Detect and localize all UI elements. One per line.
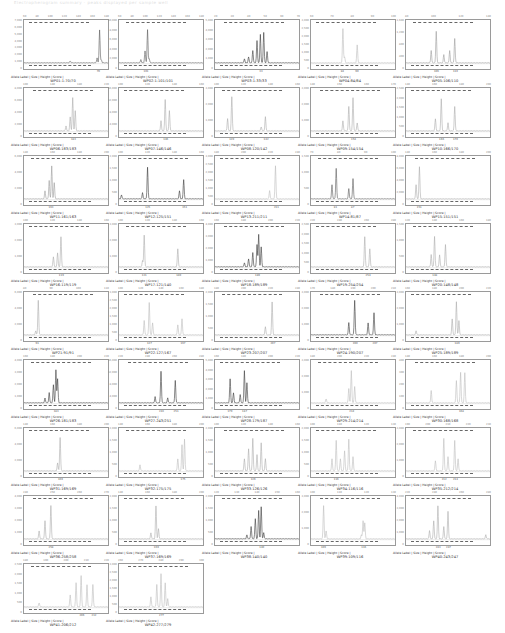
allele-size-label[interactable]: 214 [453,478,458,481]
plot-area[interactable] [118,155,204,206]
allele-size-label[interactable]: 211 [274,206,279,209]
plot-area[interactable] [23,87,109,138]
plot-area[interactable] [214,19,300,70]
allele-size-label[interactable]: 189 [255,274,260,277]
allele-size-label[interactable]: 206 [79,614,84,617]
plot-area[interactable] [405,495,491,546]
allele-size-label[interactable]: 119 [59,274,64,277]
plot-area[interactable] [118,427,204,478]
allele-size-label[interactable]: 140 [259,546,264,549]
allele-size-label[interactable]: 140 [176,274,181,277]
plot-area[interactable] [118,563,204,614]
plot-area[interactable] [310,359,396,410]
plot-area[interactable] [310,19,396,70]
plot-area[interactable] [23,19,109,70]
plot-area[interactable] [405,19,491,70]
allele-size-label[interactable]: 120 [229,138,234,141]
plot-area[interactable] [23,427,109,478]
plot-area[interactable] [310,291,396,342]
plot-area[interactable] [214,291,300,342]
allele-size-label[interactable]: 190 [353,342,358,345]
allele-size-label[interactable]: 179 [227,410,232,413]
allele-size-label[interactable]: 116 [361,546,366,549]
allele-size-label[interactable]: 142 [264,138,269,141]
plot-area[interactable] [214,155,300,206]
plot-area[interactable] [23,359,109,410]
allele-size-label[interactable]: 167 [181,342,186,345]
allele-size-label[interactable]: 212 [442,478,447,481]
allele-size-label[interactable]: 84 [341,70,344,73]
allele-size-label[interactable]: 207 [373,342,378,345]
trace-svg [119,428,203,477]
allele-size-label[interactable]: 116 [334,478,339,481]
allele-size-label[interactable]: 90 [355,70,358,73]
allele-size-label[interactable]: 251 [174,410,179,413]
allele-size-label[interactable]: 127 [147,342,152,345]
allele-size-label[interactable]: 106 [434,70,439,73]
plot-area[interactable] [118,223,204,274]
plot-area[interactable] [23,155,109,206]
allele-size-label[interactable]: 101 [144,70,149,73]
allele-size-label[interactable]: 87 [351,206,354,209]
allele-size-label[interactable]: 109 [321,546,326,549]
plot-area[interactable] [214,495,300,546]
allele-size-label[interactable]: 110 [453,70,458,73]
plot-area[interactable] [214,87,300,138]
plot-area[interactable] [310,495,396,546]
plot-area[interactable] [310,223,396,274]
allele-size-label[interactable]: 166 [439,138,444,141]
allele-size-label[interactable]: 243 [436,546,441,549]
allele-size-label[interactable]: 151 [182,206,187,209]
allele-size-label[interactable]: 187 [242,410,247,413]
allele-size-label[interactable]: 247 [446,546,451,549]
allele-size-label[interactable]: 183 [54,410,59,413]
plot-area[interactable] [118,359,204,410]
allele-size-label[interactable]: 258 [49,546,54,549]
plot-area[interactable] [118,291,204,342]
allele-size-label[interactable]: 189 [455,342,460,345]
allele-size-label[interactable]: 126 [251,478,256,481]
allele-size-label[interactable]: 121 [142,274,147,277]
plot-area[interactable] [118,495,204,546]
allele-size-label[interactable]: 170 [453,138,458,141]
plot-area[interactable] [405,427,491,478]
plot-area[interactable] [118,19,204,70]
allele-size-label[interactable]: 146 [163,138,168,141]
plot-area[interactable] [214,359,300,410]
allele-size-label[interactable]: 81 [334,206,337,209]
plot-area[interactable] [23,223,109,274]
plot-area[interactable] [23,291,109,342]
plot-area[interactable] [405,87,491,138]
allele-size-label[interactable]: 169 [58,478,63,481]
allele-size-label[interactable]: 243 [159,410,164,413]
allele-size-label[interactable]: 154 [351,138,356,141]
allele-size-label[interactable]: 214 [349,410,354,413]
allele-size-label[interactable]: 70 [97,70,100,73]
plot-area[interactable] [405,359,491,410]
plot-area[interactable] [405,155,491,206]
allele-size-label[interactable]: 125 [145,206,150,209]
allele-size-label[interactable]: 277 [159,614,164,617]
allele-size-label[interactable]: 169 [154,546,159,549]
allele-size-label[interactable]: 151 [417,206,422,209]
allele-size-label[interactable]: 254 [366,274,371,277]
allele-size-label[interactable]: 175 [181,478,186,481]
plot-area[interactable] [23,495,109,546]
plot-area[interactable] [310,155,396,206]
allele-size-label[interactable]: 91 [36,342,39,345]
allele-size-label[interactable]: 168 [459,410,464,413]
plot-area[interactable] [310,427,396,478]
plot-area[interactable] [405,291,491,342]
allele-size-label[interactable]: 33 [259,70,262,73]
allele-size-label[interactable]: 148 [432,274,437,277]
allele-size-label[interactable]: 183 [71,138,76,141]
allele-size-label[interactable]: 212 [92,614,97,617]
allele-size-label[interactable]: 207 [270,342,275,345]
plot-area[interactable] [310,87,396,138]
plot-area[interactable] [405,223,491,274]
plot-area[interactable] [23,563,109,614]
plot-area[interactable] [214,223,300,274]
allele-size-label[interactable]: 163 [49,206,54,209]
plot-area[interactable] [118,87,204,138]
plot-area[interactable] [214,427,300,478]
